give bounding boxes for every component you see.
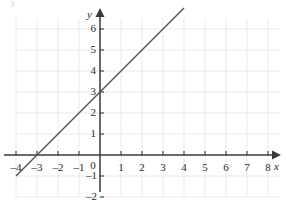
x-tick-label: –2 xyxy=(52,161,64,173)
x-tick-label: 5 xyxy=(202,161,208,173)
x-axis-arrowhead xyxy=(272,151,281,160)
x-axis-label: x xyxy=(273,160,279,172)
x-tick-label: 6 xyxy=(223,161,229,173)
y-tick-label: 6 xyxy=(91,22,97,34)
y-tick-label: 1 xyxy=(91,127,97,139)
y-tick-label: –2 xyxy=(85,190,97,200)
x-tick-label: 3 xyxy=(160,161,166,173)
coordinate-plane-chart: –4 –3 –2 –1 0 1 2 3 4 5 6 7 8 6 5 4 3 2 … xyxy=(0,0,286,200)
x-tick-label: 2 xyxy=(139,161,145,173)
y-axis xyxy=(96,8,105,192)
x-tick-label: –4 xyxy=(10,161,23,173)
y-tick-label: 3 xyxy=(91,85,97,97)
x-tick-label: 4 xyxy=(181,161,187,173)
corner-artifact-mark: 3 xyxy=(10,0,20,8)
x-tick-label: 1 xyxy=(118,161,124,173)
y-axis-label: y xyxy=(86,8,92,20)
y-tick-label: –1 xyxy=(85,169,97,181)
y-tick-label: 5 xyxy=(91,43,97,55)
y-tick-label: 4 xyxy=(91,64,97,76)
x-tick-label: 8 xyxy=(265,161,271,173)
y-axis-arrowhead xyxy=(96,8,105,17)
x-tick-label: 7 xyxy=(244,161,250,173)
x-tick-label: –3 xyxy=(31,161,44,173)
graph-container: 3 xyxy=(0,0,286,200)
y-tick-label: 2 xyxy=(91,106,97,118)
x-tick-label: –1 xyxy=(73,161,85,173)
